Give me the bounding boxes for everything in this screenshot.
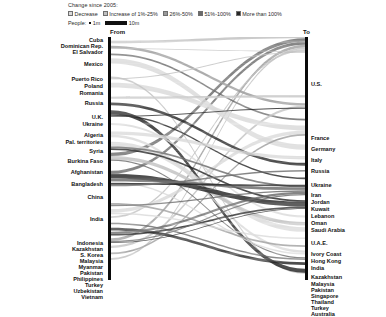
source-label-vietnam: Vietnam <box>81 294 103 300</box>
target-label-kuwait: Kuwait <box>311 206 329 212</box>
source-label-ukraine: Ukraine <box>82 121 103 127</box>
source-label-poland: Poland <box>84 83 103 89</box>
target-label-ukraine: Ukraine <box>311 182 332 188</box>
target-label-india: India <box>311 265 324 271</box>
target-label-u-s: U.S. <box>311 81 322 87</box>
target-label-kazakhstan: Kazakhstan <box>311 274 342 280</box>
target-label-u-a-e: U.A.E. <box>311 240 327 246</box>
source-label-bangladesh: Bangladesh <box>71 181 103 187</box>
legend-width-scale: People: 1m 10m <box>68 19 384 27</box>
source-label-russia: Russia <box>85 100 103 106</box>
legend-item-label: More than 100% <box>242 11 282 17</box>
legend-swatch-icon <box>68 11 73 16</box>
scale-large-label: 10m <box>129 20 140 26</box>
legend-swatch-icon <box>163 11 168 16</box>
legend-item-increase-1-25: Increase of 1%-25% <box>103 11 158 17</box>
legend-item-label: 26%-50% <box>169 11 192 17</box>
flow-ribbons <box>111 37 305 280</box>
target-label-saudi-arabia: Saudi Arabia <box>311 227 345 233</box>
target-axis-bar <box>305 37 308 280</box>
legend-item-more-than-100: More than 100% <box>236 11 282 17</box>
source-label-el-salvador: El Salvador <box>73 49 103 55</box>
target-label-france: France <box>311 135 329 141</box>
source-label-pal-territories: Pal. territories <box>65 139 103 145</box>
target-label-hong-kong: Hong Kong <box>311 258 341 264</box>
legend-item-decrease: Decrease <box>68 11 98 17</box>
from-axis-header: From <box>110 29 125 35</box>
target-label-germany: Germany <box>311 146 335 152</box>
sankey-plot-area <box>108 37 308 280</box>
target-label-ivory-coast: Ivory Coast <box>311 251 341 257</box>
target-label-russia: Russia <box>311 168 329 174</box>
source-label-india: India <box>90 216 103 222</box>
thick-rule-icon <box>105 21 127 24</box>
source-label-algeria: Algeria <box>84 132 103 138</box>
legend-items: Decrease Increase of 1%-25% 26%-50% 51%-… <box>68 10 384 17</box>
legend-item-label: 51%-100% <box>204 11 230 17</box>
legend-title: Change since 2005: <box>68 2 384 9</box>
target-label-iran: Iran <box>311 192 321 198</box>
flow-ribbon <box>111 47 305 260</box>
source-label-romania: Romania <box>79 90 103 96</box>
legend-item-label: Increase of 1%-25% <box>109 11 158 17</box>
legend-item-label: Decrease <box>75 11 98 17</box>
source-label-burkina-faso: Burkina Faso <box>68 158 103 164</box>
legend-swatch-icon <box>236 11 241 16</box>
source-label-mexico: Mexico <box>84 61 103 67</box>
source-label-u-k: U.K. <box>92 114 103 120</box>
legend-swatch-icon <box>103 11 108 16</box>
source-label-china: China <box>87 194 103 200</box>
source-label-afghanistan: Afghanistan <box>71 169 103 175</box>
target-label-australia: Australia <box>311 311 335 317</box>
source-label-syria: Syria <box>89 148 103 154</box>
thin-rule-icon <box>89 22 91 23</box>
scale-small-label: 1m <box>93 20 101 26</box>
target-label-italy: Italy <box>311 157 322 163</box>
legend-item-26-50: 26%-50% <box>163 11 193 17</box>
target-label-jordan: Jordan <box>311 199 330 205</box>
legend-swatch-icon <box>198 11 203 16</box>
legend: Change since 2005: Decrease Increase of … <box>68 2 384 27</box>
legend-item-51-100: 51%-100% <box>198 11 231 17</box>
target-label-oman: Oman <box>311 220 327 226</box>
to-axis-header: To <box>303 29 310 35</box>
scale-label: People: <box>68 20 86 26</box>
target-label-lebanon: Lebanon <box>311 213 334 219</box>
source-label-puerto-rico: Puerto Rico <box>72 76 103 82</box>
